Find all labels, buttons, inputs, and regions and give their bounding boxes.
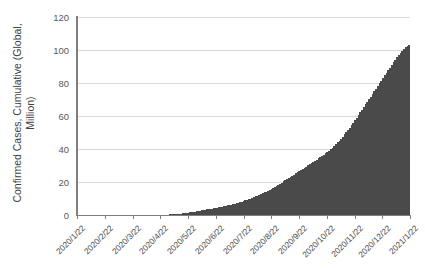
x-tick-mark: [133, 215, 134, 219]
x-tick-label-text: 2020/2/22: [82, 223, 115, 256]
x-tick-label-text: 2020/8/22: [248, 223, 281, 256]
x-tick-mark: [188, 215, 189, 219]
x-tick-mark: [299, 215, 300, 219]
x-tick-label-text: 2020/4/22: [137, 223, 170, 256]
bars-layer: [77, 17, 410, 215]
plot-area: [77, 17, 410, 215]
y-tick-label-20: 20: [44, 177, 74, 188]
y-axis-title-line-1: Confirmed Cases, Cumulative (Global,: [11, 23, 24, 202]
x-tick-mark: [410, 215, 411, 219]
y-tick-label-0: 0: [44, 210, 74, 221]
x-tick-mark: [271, 215, 272, 219]
y-axis-title-line-2: Million): [24, 23, 37, 202]
x-tick-mark: [327, 215, 328, 219]
bar: [408, 45, 410, 215]
x-tick-mark: [160, 215, 161, 219]
y-tick-label-60: 60: [44, 111, 74, 122]
x-tick-label-text: 2020/5/22: [165, 223, 198, 256]
x-tick-mark: [355, 215, 356, 219]
x-tick-mark: [77, 215, 78, 219]
y-tick-label-100: 100: [44, 45, 74, 56]
x-tick-mark: [382, 215, 383, 219]
y-axis-title: Confirmed Cases, Cumulative (Global, Mil…: [0, 0, 48, 225]
x-tick-label-text: 2020/6/22: [193, 223, 226, 256]
x-tick-label-text: 2020/3/22: [109, 223, 142, 256]
x-tick-mark: [244, 215, 245, 219]
x-tick-mark: [216, 215, 217, 219]
y-axis-line: [76, 16, 78, 216]
x-tick-label-text: 2020/7/22: [220, 223, 253, 256]
y-tick-label-120: 120: [44, 12, 74, 23]
x-tick-mark: [105, 215, 106, 219]
y-tick-label-80: 80: [44, 78, 74, 89]
y-tick-label-40: 40: [44, 144, 74, 155]
chart-root: Confirmed Cases, Cumulative (Global, Mil…: [0, 0, 425, 278]
